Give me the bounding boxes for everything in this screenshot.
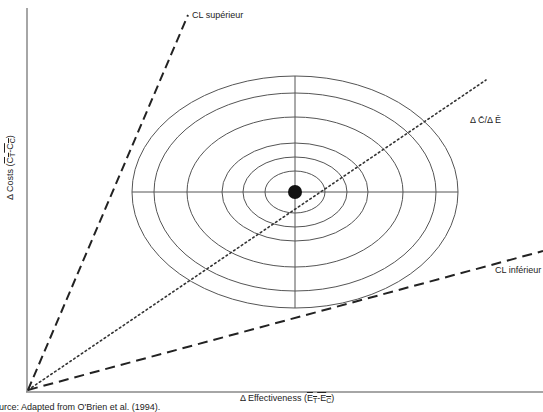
- x-axis-label: Δ Effectiveness (ET-EC): [240, 394, 334, 404]
- cl-inferior-line: [28, 251, 543, 390]
- x-ec: -E: [317, 393, 326, 403]
- y-axis-label: Δ Costs (CT-CC): [6, 135, 16, 200]
- y-cc: -C: [5, 143, 15, 153]
- source-note: Source: Adapted from O'Brien et al. (199…: [0, 403, 160, 412]
- y-c-sub: C: [9, 138, 16, 143]
- cl-inferior-label: CL inférieur: [495, 266, 541, 275]
- cl-superior-line: [28, 15, 188, 390]
- ratio-label: Δ C̄/Δ Ē: [470, 116, 501, 125]
- y-ct: C: [5, 157, 15, 164]
- diagram-canvas: [0, 0, 543, 412]
- cl-superior-label: CL supérieur: [192, 11, 243, 20]
- point-estimate-dot: [288, 185, 302, 199]
- x-close: ): [331, 393, 334, 403]
- icer-ratio-line: [28, 80, 486, 390]
- y-t-sub: T: [9, 153, 16, 157]
- y-close: ): [5, 135, 15, 138]
- y-axis-label-text: Δ Costs (: [5, 163, 15, 200]
- x-axis-label-text: Δ Effectiveness (: [240, 393, 307, 403]
